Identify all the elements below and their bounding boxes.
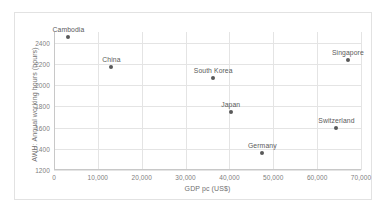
- grid-line-vertical: [186, 32, 187, 170]
- grid-line-horizontal: [54, 149, 361, 150]
- x-axis-line: [54, 169, 361, 170]
- data-point-label: China: [102, 56, 120, 63]
- data-point: [260, 151, 264, 155]
- x-tick-label: 0: [52, 174, 56, 181]
- grid-line-horizontal: [54, 85, 361, 86]
- grid-line-horizontal: [54, 64, 361, 65]
- grid-line-vertical: [98, 32, 99, 170]
- data-point: [334, 126, 338, 130]
- chart-container: 1200140016001800200022002400 AWH: Annual…: [14, 12, 372, 200]
- grid-line-horizontal: [54, 128, 361, 129]
- grid-line-vertical: [142, 32, 143, 170]
- x-tick-label: 30,000: [175, 174, 195, 181]
- grid-line-horizontal: [54, 106, 361, 107]
- x-axis-title: GDP pc (US$): [54, 185, 361, 192]
- grid-line-vertical: [317, 32, 318, 170]
- y-axis-title: AWH: Annual working hours (hours): [31, 30, 38, 180]
- grid-line-horizontal: [54, 170, 361, 171]
- plot-area: CambodiaChinaSouth KoreaJapanSingaporeSw…: [54, 32, 361, 170]
- data-point: [346, 58, 350, 62]
- data-point: [109, 65, 113, 69]
- data-point-label: Switzerland: [318, 117, 354, 124]
- x-tick-label: 40,000: [219, 174, 239, 181]
- data-point-label: Singapore: [332, 49, 364, 56]
- x-tick-label: 70,000: [351, 174, 371, 181]
- grid-line-horizontal: [54, 43, 361, 44]
- x-tick-label: 20,000: [131, 174, 151, 181]
- x-tick-label: 60,000: [307, 174, 327, 181]
- data-point: [211, 76, 215, 80]
- x-tick-label: 50,000: [263, 174, 283, 181]
- x-tick-label: 10,000: [88, 174, 108, 181]
- data-point-label: Japan: [221, 101, 240, 108]
- data-point-label: Cambodia: [53, 26, 85, 33]
- data-point: [229, 110, 233, 114]
- data-point-label: Germany: [248, 142, 277, 149]
- data-point: [66, 35, 70, 39]
- data-point-label: South Korea: [194, 67, 233, 74]
- grid-line-vertical: [273, 32, 274, 170]
- y-axis-line: [54, 32, 55, 170]
